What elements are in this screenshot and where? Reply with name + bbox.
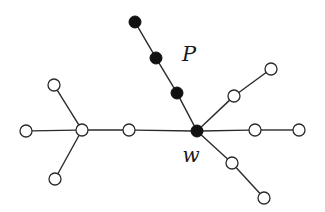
node-w [191, 125, 203, 137]
node-r2 [293, 124, 305, 136]
edge-w-r1 [201, 130, 249, 131]
node-ur2 [265, 63, 277, 75]
node-c [76, 124, 88, 136]
node-lt [48, 79, 60, 91]
node-lr2 [258, 192, 270, 204]
node-p2 [150, 52, 162, 64]
edges-layer [32, 25, 293, 193]
nodes-layer [20, 16, 305, 204]
edge-w-m [135, 130, 193, 131]
edge-w-ur1 [200, 100, 230, 128]
edge-c-lt [57, 90, 79, 125]
edge-p3-w [179, 96, 196, 128]
path-label-p: P [181, 42, 197, 66]
node-m [123, 124, 135, 136]
node-p1 [129, 16, 141, 28]
node-p3 [171, 87, 183, 99]
edge-lr1-lr2 [236, 167, 260, 193]
node-r1 [249, 124, 261, 136]
node-lb [49, 173, 61, 185]
node-ur1 [228, 90, 240, 102]
edge-p1-p2 [137, 25, 154, 55]
tree-diagram: P w [0, 0, 325, 212]
edge-p2-p3 [158, 61, 175, 90]
edge-c-lb [58, 135, 79, 173]
edge-ur1-ur2 [239, 73, 266, 93]
edge-c-ll [32, 130, 76, 131]
vertex-label-w: w [182, 143, 199, 167]
node-ll [20, 125, 32, 137]
node-lr1 [226, 157, 238, 169]
edge-w-lr1 [200, 133, 228, 159]
